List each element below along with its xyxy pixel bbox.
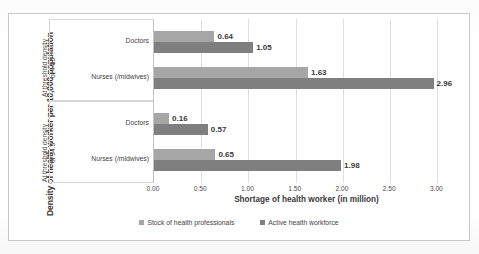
bar-active-2.96[interactable] [154,78,434,89]
gridline-3.00 [437,19,438,183]
bar-value-label-1.63: 1.63 [311,67,327,78]
gridline-1.50 [296,19,297,183]
bar-value-label-0.65: 0.65 [218,149,234,160]
x-tick-label-2.50: 2.50 [383,185,396,192]
bar-value-label-0.64: 0.64 [217,31,233,42]
plot-area: 0.641.051.632.960.160.570.651.98 [153,19,460,183]
category-label-nurses-44-5: Nurses (/midwives) [49,72,149,81]
bar-value-label-1.05: 1.05 [256,42,272,53]
bar-value-label-2.96: 2.96 [437,78,453,89]
bar-stock-0.65[interactable] [154,149,215,160]
category-label-doctors-34-5: Doctors [49,118,149,127]
chart-legend: Stock of health professionals Active hea… [9,219,469,226]
x-tick-label-1.00: 1.00 [241,185,254,192]
x-tick-label-0.50: 0.50 [194,185,207,192]
chart-container: Density of health worker per 10,000 popu… [8,13,470,241]
x-axis-title: Shortage of health worker (in million) [153,195,460,204]
bar-stock-1.63[interactable] [154,67,308,78]
legend-label-active: Active health workforce [268,219,338,226]
legend-item-stock[interactable]: Stock of health professionals [139,219,234,226]
x-tick-label-0.00: 0.00 [147,185,160,192]
bar-stock-0.64[interactable] [154,31,214,42]
bar-value-label-0.16: 0.16 [172,113,188,124]
bar-active-0.57[interactable] [154,124,208,135]
x-tick-label-3.00: 3.00 [430,185,443,192]
legend-item-active[interactable]: Active health workforce [260,219,338,226]
bar-active-1.98[interactable] [154,160,341,171]
legend-label-stock: Stock of health professionals [147,219,234,226]
bar-value-label-0.57: 0.57 [211,124,227,135]
group-cell-threshold-34-5 [49,101,153,183]
bar-value-label-1.98: 1.98 [344,160,360,171]
group-cell-threshold-44-5 [49,19,153,101]
gridline-2.00 [343,19,344,183]
legend-swatch-icon-stock [139,220,144,225]
gridline-2.50 [390,19,391,183]
legend-swatch-icon-active [260,220,265,225]
x-tick-label-2.00: 2.00 [336,185,349,192]
bar-active-1.05[interactable] [154,42,253,53]
x-tick-label-1.50: 1.50 [288,185,301,192]
bar-stock-0.16[interactable] [154,113,169,124]
category-label-doctors-44-5: Doctors [49,36,149,45]
category-label-nurses-34-5: Nurses (/midwives) [49,154,149,163]
